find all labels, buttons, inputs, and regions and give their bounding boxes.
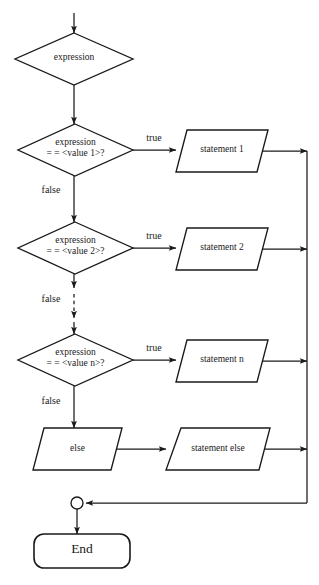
decision-case1-shape xyxy=(18,124,133,176)
process-statement2-shape xyxy=(176,228,268,270)
process-statement1-shape xyxy=(176,130,268,172)
flowchart-svg xyxy=(0,0,319,585)
decision-expression-shape xyxy=(15,33,133,85)
flowchart-canvas: expression expression = = <value 1>? sta… xyxy=(0,0,319,585)
merge-connector-circle xyxy=(71,497,83,509)
terminator-end-shape xyxy=(34,534,130,568)
process-statementelse-shape xyxy=(166,428,270,470)
process-else-shape xyxy=(33,428,122,470)
process-statementn-shape xyxy=(176,340,268,382)
decision-case2-shape xyxy=(18,222,133,274)
decision-casen-shape xyxy=(18,334,133,386)
